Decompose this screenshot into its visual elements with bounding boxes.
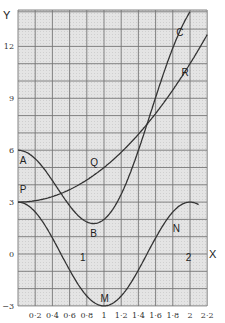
y-axis-label: Y [3,9,11,21]
x-tick: 0·2 [29,311,42,320]
point-label: A [20,155,27,166]
x-tick: 2 [187,311,192,320]
x-tick: 1·2 [115,311,128,320]
point-label: Q [90,157,98,168]
point-label: R [181,67,188,78]
x-tick: 0·8 [80,311,93,320]
chart: 0·20·40·60·811·21·41·61·822·2129630−3 AP… [0,0,225,323]
x-tick: 0·4 [46,311,59,320]
x-tick: 2·2 [201,311,214,320]
x-axis-label: X [209,248,217,260]
point-label: 1 [80,252,86,263]
y-tick: 9 [9,94,14,103]
y-tick: −3 [2,302,14,311]
y-tick: 0 [9,250,14,259]
y-tick: 12 [4,42,14,51]
y-tick: 6 [9,146,14,155]
x-tick: 1·6 [149,311,162,320]
point-label: M [101,293,109,304]
x-tick: 1·4 [132,311,145,320]
point-label: B [90,228,97,239]
point-label: C [176,27,183,38]
point-label: N [173,223,180,234]
plot-area [18,10,207,306]
x-tick: 1 [101,311,106,320]
x-tick: 1·8 [166,311,179,320]
point-label: 2 [186,252,192,263]
x-tick: 0·6 [63,311,76,320]
y-tick: 3 [9,198,14,207]
point-label: P [20,184,27,195]
